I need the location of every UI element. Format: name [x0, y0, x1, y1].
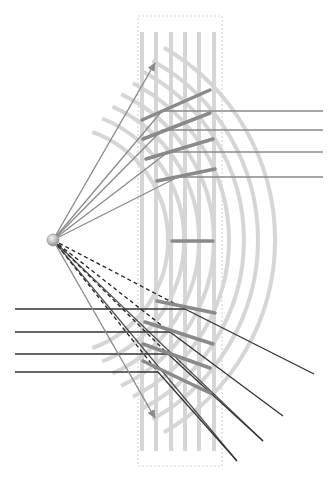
direction-arrow	[53, 63, 155, 240]
point-source	[47, 234, 59, 246]
incident-ray	[53, 111, 162, 240]
diagram-stage	[0, 0, 335, 482]
source-sphere	[47, 234, 59, 246]
beam-steering-diagram	[0, 0, 335, 482]
mirror-segments	[142, 90, 215, 393]
direction-arrows	[53, 63, 155, 418]
dashed-virtual-ray	[53, 240, 170, 332]
incident-ray	[53, 152, 168, 240]
